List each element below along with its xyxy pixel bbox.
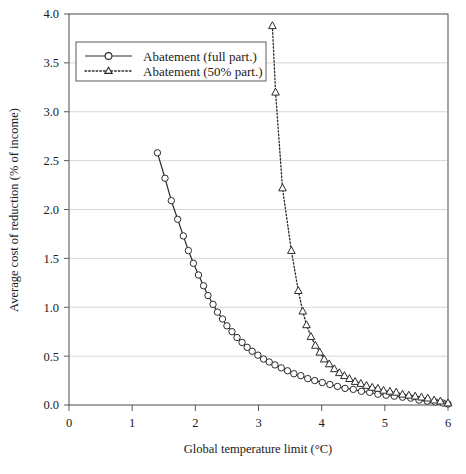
data-point-marker-circle — [334, 383, 340, 389]
data-point-marker-circle — [162, 175, 168, 181]
y-tick-label: 2.5 — [43, 154, 59, 168]
y-tick-label: 0.0 — [43, 398, 59, 412]
y-tick-label: 4.0 — [43, 7, 59, 21]
data-point-marker-circle — [342, 385, 348, 391]
data-point-marker-circle — [205, 292, 211, 298]
data-point-marker-circle — [234, 334, 240, 340]
data-point-marker-circle — [284, 368, 290, 374]
data-point-marker-circle — [210, 301, 216, 307]
x-tick-label: 4 — [319, 416, 326, 430]
x-tick-label: 1 — [129, 416, 135, 430]
x-tick-label: 6 — [445, 416, 451, 430]
legend-label-full-participation: Abatement (full part.) — [143, 49, 257, 64]
data-point-marker-circle — [249, 348, 255, 354]
data-point-marker-circle — [154, 150, 160, 156]
y-tick-label: 3.0 — [43, 105, 59, 119]
x-axis-title: Global temperature limit (°C) — [184, 442, 332, 456]
abatement-cost-line-chart: 0.00.51.01.52.02.53.03.54.0 0123456 Aver… — [0, 0, 466, 474]
chart-legend: Abatement (full part.) Abatement (50% pa… — [76, 42, 266, 81]
y-axis-title: Average cost of reduction (% of income) — [7, 108, 21, 312]
data-point-marker-circle — [291, 371, 297, 377]
data-point-marker-circle — [298, 372, 304, 378]
data-point-marker-circle — [224, 323, 230, 329]
data-point-marker-circle — [278, 365, 284, 371]
data-point-marker-circle — [219, 316, 225, 322]
x-tick-label: 5 — [382, 416, 388, 430]
y-tick-label: 1.0 — [43, 301, 59, 315]
data-point-marker-circle — [255, 352, 261, 358]
data-point-marker-circle — [272, 362, 278, 368]
data-point-marker-circle — [195, 272, 201, 278]
y-axis-tick-labels: 0.00.51.01.52.02.53.03.54.0 — [43, 7, 59, 412]
data-point-marker-circle — [214, 309, 220, 315]
x-tick-label: 0 — [66, 416, 72, 430]
data-point-marker-circle — [305, 375, 311, 381]
data-point-marker-circle — [185, 247, 191, 253]
data-point-marker-circle — [200, 283, 206, 289]
data-point-marker-circle — [327, 381, 333, 387]
data-point-marker-circle — [180, 233, 186, 239]
x-tick-label: 2 — [192, 416, 198, 430]
y-tick-label: 3.5 — [43, 56, 59, 70]
data-point-marker-circle — [312, 377, 318, 383]
data-point-marker-circle — [229, 328, 235, 334]
y-tick-label: 2.0 — [43, 203, 59, 217]
data-point-marker-circle — [319, 379, 325, 385]
data-point-marker-circle — [168, 198, 174, 204]
legend-marker-circle-icon — [105, 53, 112, 60]
data-point-marker-circle — [174, 216, 180, 222]
x-tick-label: 3 — [255, 416, 261, 430]
data-point-marker-circle — [350, 386, 356, 392]
y-tick-label: 0.5 — [43, 350, 59, 364]
data-point-marker-circle — [190, 260, 196, 266]
data-point-marker-circle — [239, 339, 245, 345]
data-point-marker-circle — [358, 388, 364, 394]
legend-label-half-participation: Abatement (50% part.) — [143, 64, 262, 79]
y-tick-label: 1.5 — [43, 252, 59, 266]
chart-figure: 0.00.51.01.52.02.53.03.54.0 0123456 Aver… — [0, 0, 466, 474]
